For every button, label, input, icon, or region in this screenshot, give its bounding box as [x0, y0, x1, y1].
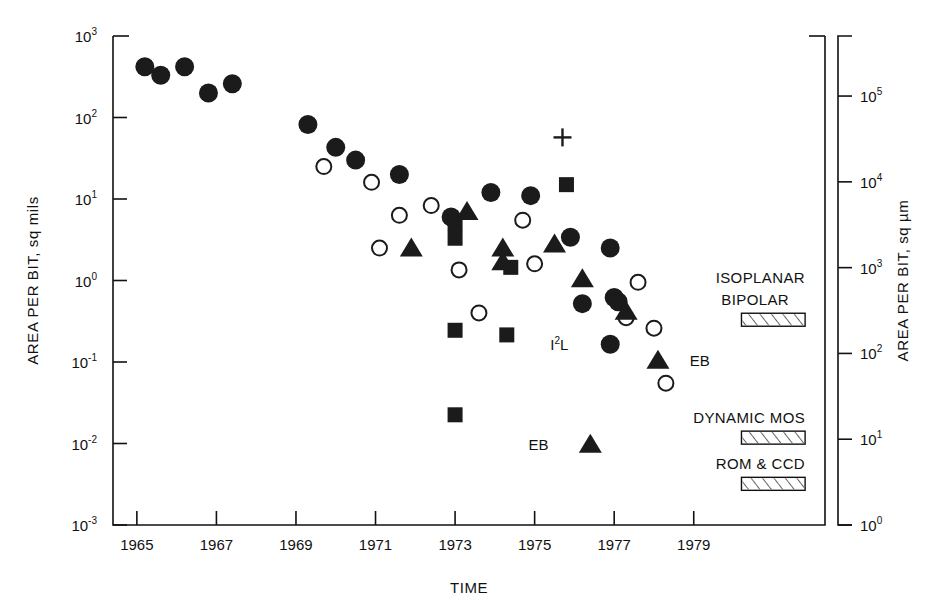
y-tick-label: 10-1	[71, 352, 97, 371]
technology-bar-hatch	[742, 314, 804, 325]
data-point-filled-circle	[151, 66, 170, 85]
x-tick-label: 1979	[677, 536, 710, 553]
x-tick-label: 1965	[120, 536, 153, 553]
data-point-filled-circle	[601, 239, 620, 258]
data-point-open-circle	[658, 376, 673, 391]
data-point-filled-triangle	[646, 350, 669, 369]
chart-figure: 10310210110010-110-210-31965196719691971…	[0, 0, 929, 604]
data-point-filled-circle	[175, 57, 194, 76]
point-annotation: EB	[690, 352, 710, 369]
point-annotations-layer: I2LEBEB	[528, 335, 709, 453]
technology-bars-layer: ISOPLANARBIPOLARDYNAMIC MOSROM & CCD	[693, 269, 805, 490]
data-point-filled-square	[503, 260, 518, 275]
x-tick-label: 1973	[438, 536, 471, 553]
y-tick-label-right: 100	[860, 515, 883, 534]
technology-bar-label: DYNAMIC MOS	[693, 409, 805, 426]
data-point-filled-circle	[390, 165, 409, 184]
data-point-filled-circle	[601, 335, 620, 354]
data-point-open-circle	[452, 262, 467, 277]
technology-bar-hatch	[742, 478, 804, 489]
y-tick-label-right: 105	[860, 86, 883, 105]
y-axis-title-right: AREA PER BIT, sq µm	[894, 200, 911, 362]
data-point-filled-triangle	[400, 238, 423, 257]
data-point-open-circle	[364, 175, 379, 190]
x-tick-label: 1975	[518, 536, 551, 553]
x-tick-label: 1969	[279, 536, 312, 553]
data-point-filled-square	[448, 407, 463, 422]
axes-layer: 10310210110010-110-210-31965196719691971…	[71, 26, 882, 553]
point-annotation: EB	[528, 436, 548, 453]
x-tick-label: 1971	[359, 536, 392, 553]
y-tick-label: 10-3	[71, 515, 97, 534]
data-point-filled-triangle	[571, 268, 594, 287]
y-tick-label-right: 102	[860, 343, 883, 362]
data-point-open-circle	[372, 241, 387, 256]
y-tick-label: 10-2	[71, 434, 97, 453]
data-point-filled-circle	[326, 138, 345, 157]
data-point-open-circle	[316, 159, 331, 174]
data-point-open-circle	[424, 198, 439, 213]
technology-bar-label: ROM & CCD	[716, 455, 805, 472]
y-tick-label-right: 101	[860, 429, 883, 448]
data-point-filled-square	[559, 177, 574, 192]
data-point-filled-circle	[521, 186, 540, 205]
data-point-filled-square	[448, 231, 463, 246]
data-point-filled-circle	[561, 228, 580, 247]
scatter-chart-canvas: 10310210110010-110-210-31965196719691971…	[0, 0, 929, 604]
point-annotation: I2L	[550, 335, 568, 353]
y-tick-label-right: 104	[860, 172, 883, 191]
data-point-open-circle	[471, 305, 486, 320]
data-point-open-circle	[631, 275, 646, 290]
technology-bar-hatch	[742, 432, 804, 443]
x-tick-label: 1967	[200, 536, 233, 553]
data-point-filled-circle	[481, 183, 500, 202]
data-point-filled-circle	[573, 294, 592, 313]
y-axis-title: AREA PER BIT, sq mils	[24, 196, 41, 364]
data-point-open-circle	[646, 321, 661, 336]
data-point-filled-circle	[199, 83, 218, 102]
data-point-open-circle	[527, 256, 542, 271]
y-tick-label: 102	[75, 108, 98, 127]
technology-bar-label: BIPOLAR	[721, 291, 789, 308]
x-tick-label: 1977	[597, 536, 630, 553]
data-point-filled-circle	[346, 151, 365, 170]
data-points-layer	[135, 57, 673, 453]
x-axis-title: TIME	[450, 579, 488, 596]
data-point-open-circle	[392, 208, 407, 223]
data-point-filled-triangle	[579, 434, 602, 453]
data-point-filled-circle	[223, 74, 242, 93]
data-point-filled-circle	[298, 115, 317, 134]
y-tick-label-right: 103	[860, 258, 883, 277]
technology-bar-label: ISOPLANAR	[716, 269, 805, 286]
data-point-filled-square	[448, 216, 463, 231]
data-point-filled-square	[448, 323, 463, 338]
y-tick-label: 100	[75, 271, 98, 290]
y-tick-label: 101	[75, 189, 98, 208]
y-tick-label: 103	[75, 26, 98, 45]
data-point-open-circle	[515, 213, 530, 228]
data-point-filled-square	[499, 327, 514, 342]
